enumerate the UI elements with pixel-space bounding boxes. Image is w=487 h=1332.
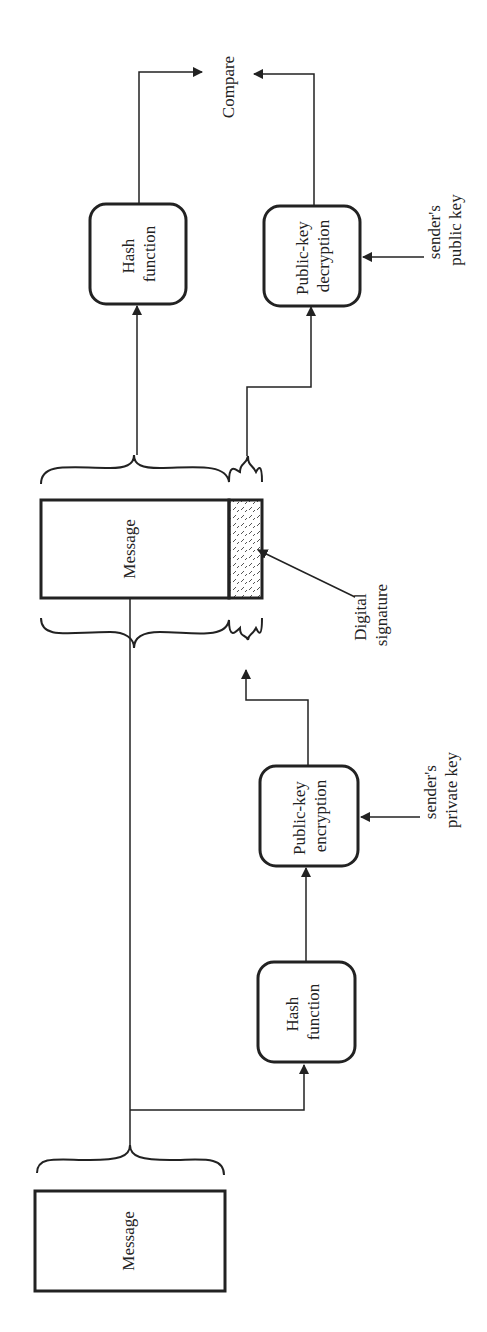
encryption-line1: Public-key	[290, 781, 309, 855]
original-message-box: Message	[35, 1191, 225, 1291]
svg-text:sender's private key: sender's private key	[421, 752, 461, 828]
public-key-encryption-box: Public-key encryption	[260, 766, 358, 866]
hash-sender-line2: function	[304, 983, 323, 1040]
hash-sender-line1: Hash	[283, 996, 302, 1031]
digital-signature-diagram: Message Hash function Public-key encrypt…	[0, 0, 487, 1332]
encryption-to-signature-line	[246, 670, 308, 766]
signed-message-box: Message	[41, 500, 229, 598]
public-key-line1: sender's	[425, 205, 444, 259]
compare-label: Compare	[219, 56, 238, 118]
private-key-line2: private key	[442, 752, 461, 828]
hash-receiver-line2: function	[140, 225, 159, 282]
digital-signature-pointer	[258, 550, 355, 597]
private-key-line1: sender's	[421, 765, 440, 819]
message-to-hash-line	[130, 1065, 304, 1110]
original-message-label: Message	[119, 1211, 138, 1270]
encryption-line2: encryption	[311, 779, 330, 852]
digital-signature-block	[229, 500, 262, 598]
signed-message-label: Message	[120, 519, 139, 578]
signed-message-upper-brace	[41, 455, 262, 484]
digital-signature-line1: Digital	[351, 593, 370, 640]
signed-message-lower-brace	[41, 618, 262, 648]
hash-to-compare-line	[139, 72, 202, 204]
hash-function-receiver-box: Hash function	[90, 204, 186, 304]
original-message-brace	[37, 1145, 224, 1175]
public-key-line2: public key	[446, 194, 465, 266]
svg-text:Digital signature: Digital signature	[351, 584, 391, 646]
public-key-decryption-box: Public-key decryption	[264, 206, 360, 306]
svg-text:sender's public key: sender's public key	[425, 194, 465, 266]
decryption-line2: decryption	[314, 219, 333, 292]
decryption-line1: Public-key	[293, 221, 312, 295]
hash-receiver-line1: Hash	[119, 238, 138, 273]
signature-to-decryption-line	[247, 307, 311, 456]
decryption-to-compare-line	[254, 74, 314, 206]
digital-signature-line2: signature	[372, 584, 391, 646]
hash-function-sender-box: Hash function	[258, 962, 355, 1062]
